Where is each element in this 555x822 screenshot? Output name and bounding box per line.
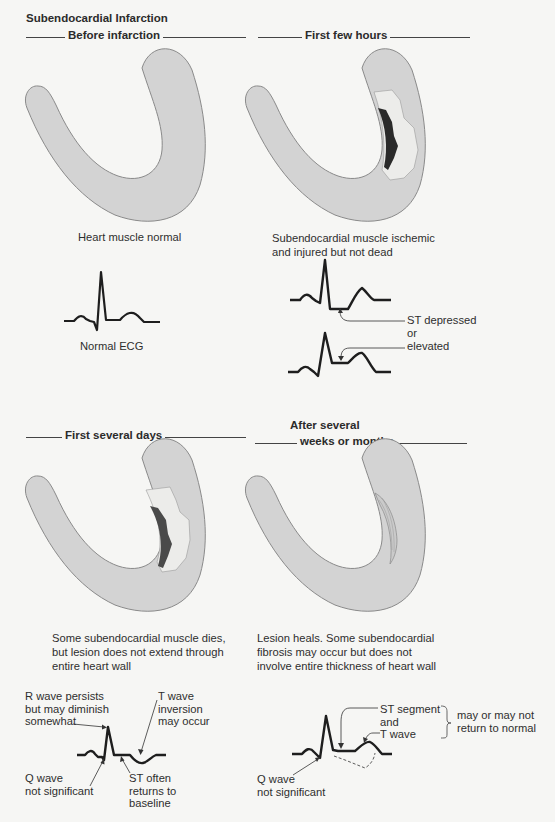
- ecg-healed: [0, 0, 555, 822]
- annotation-line: not significant: [257, 786, 325, 799]
- annotation-line: Q wave: [257, 773, 325, 786]
- q-wave-annotation-weeks: Q wave not significant: [257, 773, 325, 798]
